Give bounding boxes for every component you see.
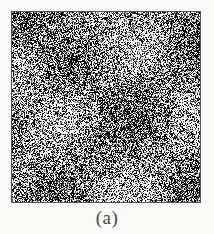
figure-panel-a: (a) (0, 0, 214, 234)
speckle-noise-image (11, 11, 201, 203)
panel-caption-label: (a) (0, 206, 214, 230)
noise-canvas (12, 12, 200, 202)
